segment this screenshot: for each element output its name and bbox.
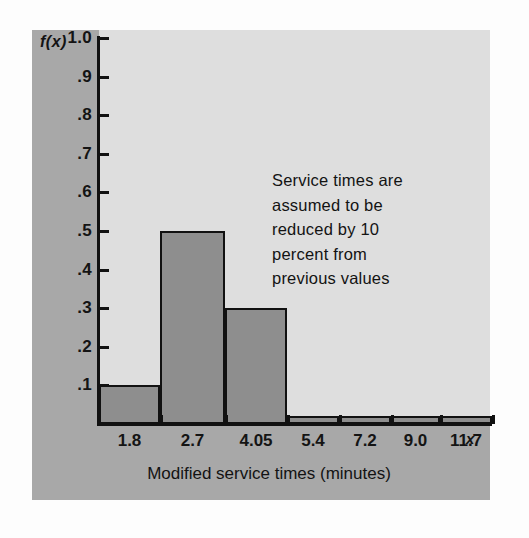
- x-axis-title: Modified service times (minutes): [99, 464, 439, 484]
- histogram-bar: [225, 308, 287, 424]
- x-axis-tick: [391, 415, 394, 424]
- y-axis-tick-label: .8: [34, 105, 92, 125]
- y-axis-tick-label: .6: [34, 182, 92, 202]
- y-axis-tick: [100, 114, 109, 117]
- y-axis-tick-label: .2: [34, 337, 92, 357]
- x-axis-tick: [339, 415, 342, 424]
- y-axis-tick-label: .5: [34, 221, 92, 241]
- x-axis-tick: [225, 415, 228, 424]
- x-axis-tick: [440, 415, 443, 424]
- y-axis-tick: [100, 37, 109, 40]
- y-axis-tick: [100, 269, 109, 272]
- y-axis-tick: [100, 191, 109, 194]
- x-axis-tick-label: 1.8: [98, 431, 162, 451]
- y-axis-tick-label: .9: [34, 67, 92, 87]
- y-axis-tick: [100, 230, 109, 233]
- y-axis-tick: [100, 76, 109, 79]
- y-axis-tick: [100, 384, 109, 387]
- x-axis-tick: [492, 415, 495, 424]
- histogram-bar: [99, 385, 160, 424]
- y-axis-tick: [100, 153, 109, 156]
- histogram-bar: [160, 231, 225, 424]
- y-axis-tick-label: .7: [34, 144, 92, 164]
- y-axis-tick-label: .3: [34, 298, 92, 318]
- y-axis-tick-label: .1: [34, 375, 92, 395]
- x-axis-tick: [160, 415, 163, 424]
- x-axis-tick-label: 2.7: [161, 431, 225, 451]
- x-axis-tick-label: 4.05: [224, 431, 288, 451]
- x-axis-line: [97, 423, 492, 426]
- x-axis-variable-label: x: [466, 430, 474, 447]
- y-axis-tick: [100, 307, 109, 310]
- y-axis-title: f(x): [40, 33, 67, 51]
- y-axis-tick: [100, 346, 109, 349]
- chart-annotation: Service times are assumed to be reduced …: [272, 168, 403, 291]
- x-axis-tick: [287, 415, 290, 424]
- y-axis-tick-label: .4: [34, 260, 92, 280]
